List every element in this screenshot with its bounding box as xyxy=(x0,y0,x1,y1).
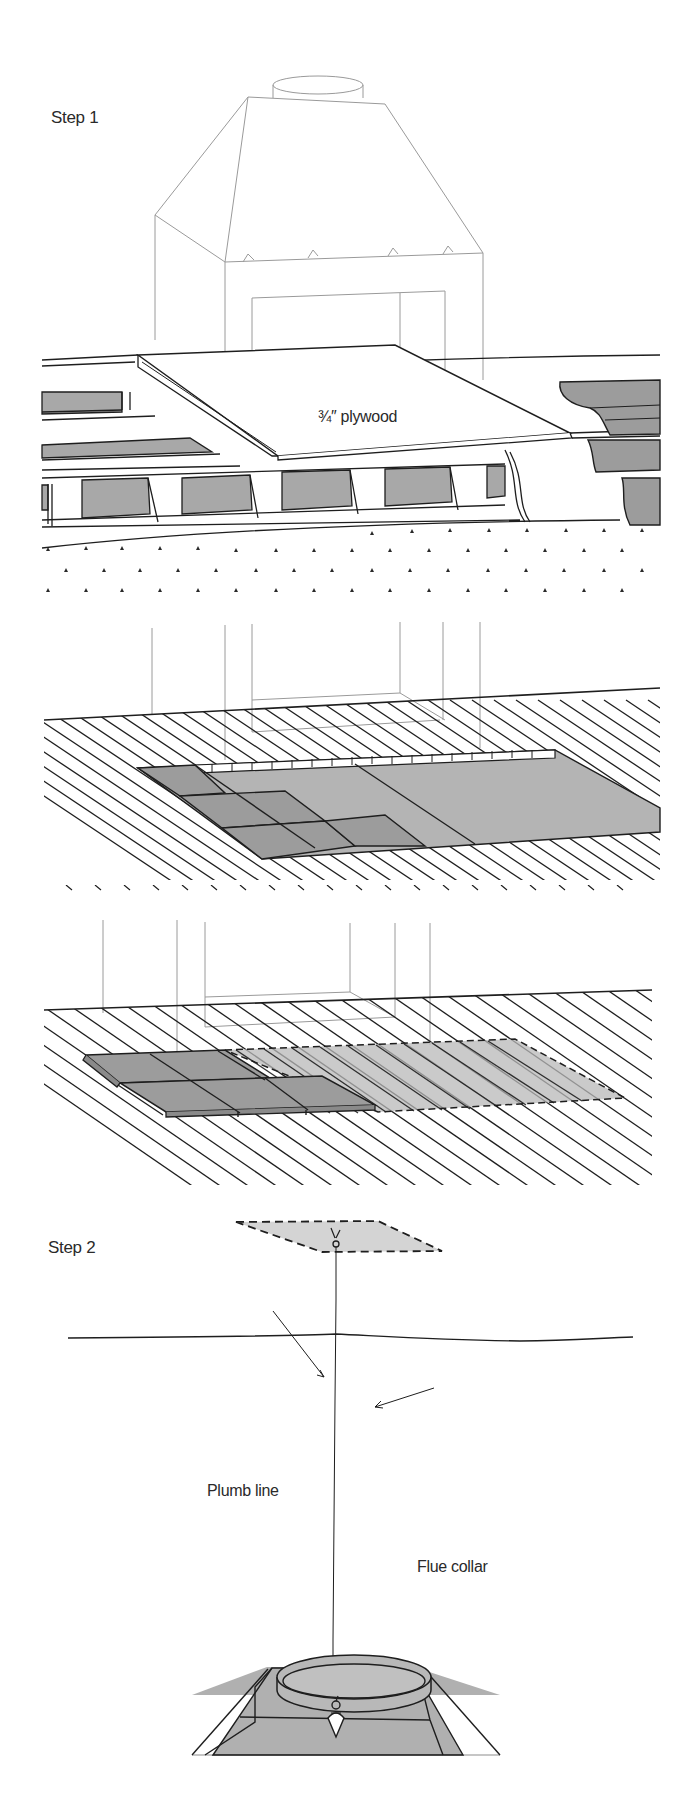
plumb-line-leader xyxy=(273,1311,324,1377)
step-2-label: Step 2 xyxy=(48,1238,95,1258)
step1-tiles-over-plywood-panel xyxy=(0,600,676,885)
fireplace-on-plywood-illustration xyxy=(0,0,676,600)
step-1-label: Step 1 xyxy=(51,108,98,128)
plumb-line-illustration xyxy=(0,1200,676,1818)
grass-tufts xyxy=(46,528,644,592)
step1-plywood-panel: Step 1 ¾″ plywood xyxy=(0,0,676,600)
flue-collar-callout: Flue collar xyxy=(417,1558,488,1576)
plumb-string xyxy=(333,1247,336,1702)
flue-collar xyxy=(277,1655,431,1712)
tiles-on-plywood-illustration xyxy=(0,600,676,885)
tiles-on-floor-illustration xyxy=(0,885,676,1200)
step2-plumb-panel: Step 2 Plumb line Flue collar xyxy=(0,1200,676,1818)
ceiling-mark xyxy=(236,1221,442,1252)
plumb-line-callout: Plumb line xyxy=(207,1482,279,1500)
flue-collar-leader xyxy=(375,1388,434,1407)
plywood-callout: ¾″ plywood xyxy=(318,408,397,426)
step1-tiles-over-floor-panel xyxy=(0,885,676,1200)
